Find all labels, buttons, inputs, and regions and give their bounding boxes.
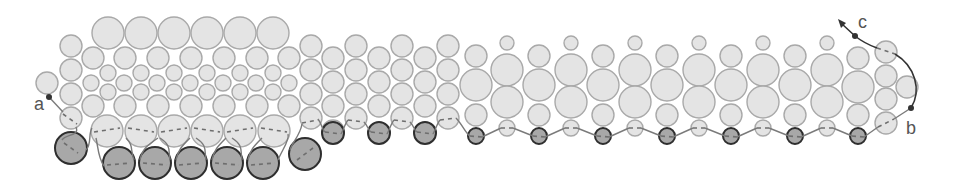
bead-light xyxy=(811,54,843,86)
bead-light xyxy=(619,54,651,86)
bead-light xyxy=(147,95,169,117)
bead-light xyxy=(368,95,390,117)
thread-segment xyxy=(577,128,597,136)
bead-light xyxy=(720,104,742,126)
thread-segment xyxy=(737,128,757,137)
bead-light xyxy=(248,75,264,91)
bead-light xyxy=(149,75,165,91)
bead-light xyxy=(656,104,678,126)
bead-light xyxy=(60,83,82,105)
bead-light xyxy=(60,59,82,81)
bead-light xyxy=(82,47,104,69)
bead-light xyxy=(180,95,202,117)
bead-light xyxy=(683,54,715,86)
thread-segment xyxy=(545,128,565,137)
bead-light xyxy=(847,47,869,69)
thread-segment xyxy=(864,127,878,137)
point-b-marker xyxy=(908,105,914,111)
bead-light xyxy=(555,54,587,86)
bead-light xyxy=(133,84,149,100)
bead-light xyxy=(322,47,344,69)
bead-light xyxy=(756,36,770,50)
bead-light xyxy=(125,17,157,49)
bead-light xyxy=(300,59,322,81)
bead-light xyxy=(683,86,715,118)
bead-light xyxy=(747,86,779,118)
thread-segment xyxy=(482,128,501,137)
beading-diagram: a b c xyxy=(0,0,954,185)
bead-light xyxy=(199,65,215,81)
bead-light xyxy=(500,36,514,50)
bead-light xyxy=(345,107,367,129)
label-b: b xyxy=(906,118,916,138)
bead-light xyxy=(215,75,231,91)
bead-light xyxy=(224,17,256,49)
bead-light xyxy=(391,107,413,129)
bead-light xyxy=(133,65,149,81)
bead-light xyxy=(875,65,897,87)
bead-light xyxy=(811,86,843,118)
bead-light xyxy=(278,47,300,69)
bead-light xyxy=(199,84,215,100)
bead-light xyxy=(300,107,322,129)
bead-light xyxy=(391,35,413,57)
bead-light xyxy=(692,36,706,50)
bead-light xyxy=(491,54,523,86)
bead-light xyxy=(60,35,82,57)
bead-light xyxy=(465,104,487,126)
bead-light xyxy=(213,95,235,117)
bead-light xyxy=(720,45,742,67)
bead-light xyxy=(847,104,869,126)
bead-light xyxy=(82,95,104,117)
bead-light xyxy=(784,104,806,126)
bead-light xyxy=(592,45,614,67)
bead-light xyxy=(555,86,587,118)
bead-light xyxy=(528,45,550,67)
thread-segment xyxy=(801,128,821,137)
thread-segment xyxy=(673,128,693,137)
bead-light xyxy=(191,17,223,49)
bead-light xyxy=(619,86,651,118)
bead-light xyxy=(528,104,550,126)
bead-light xyxy=(116,75,132,91)
bead-light xyxy=(166,65,182,81)
bead-light xyxy=(92,17,124,49)
bead-light xyxy=(414,71,436,93)
bead-light xyxy=(147,47,169,69)
bead-light xyxy=(414,47,436,69)
bead-light xyxy=(875,88,897,110)
bead-light xyxy=(460,69,492,101)
thread-segment xyxy=(833,128,852,136)
bead-dark xyxy=(103,147,135,179)
bead-light xyxy=(715,69,747,101)
bead-light xyxy=(278,95,300,117)
bead-light xyxy=(345,35,367,57)
bead-light xyxy=(265,84,281,100)
bead-light xyxy=(246,47,268,69)
bead-light xyxy=(100,65,116,81)
label-a: a xyxy=(34,94,45,114)
bead-light xyxy=(257,17,289,49)
bead-light xyxy=(820,36,834,50)
bead-light xyxy=(158,17,190,49)
bead-light xyxy=(213,47,235,69)
bead-light xyxy=(182,75,198,91)
bead-light xyxy=(83,75,99,91)
bead-light xyxy=(784,45,806,67)
bead-light xyxy=(60,107,82,129)
bead-light xyxy=(747,54,779,86)
bead-light xyxy=(391,83,413,105)
bead-light xyxy=(300,83,322,105)
bead-dark xyxy=(175,147,207,179)
bead-light xyxy=(281,75,297,91)
bead-light xyxy=(391,59,413,81)
bead-light xyxy=(437,59,459,81)
bead-light xyxy=(656,45,678,67)
bead-light xyxy=(232,65,248,81)
bead-light xyxy=(300,35,322,57)
bead-light xyxy=(651,69,683,101)
point-c-marker xyxy=(852,33,858,39)
bead-light xyxy=(265,65,281,81)
bead-light xyxy=(414,95,436,117)
bead-light xyxy=(36,72,58,94)
